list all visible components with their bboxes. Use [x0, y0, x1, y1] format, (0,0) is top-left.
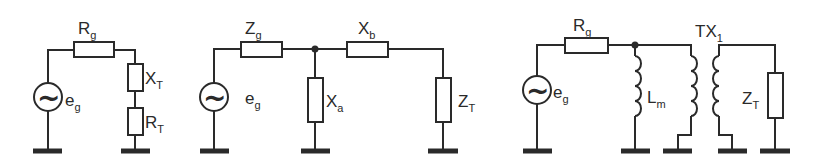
label-xa: Xa [326, 92, 344, 114]
label-xb: Xb [358, 19, 375, 41]
impedance-zg [241, 42, 282, 57]
transformer-secondary-winding [713, 56, 719, 116]
label-eg: eg [245, 89, 261, 111]
svg-text:~: ~ [526, 74, 549, 107]
resistor-rt [128, 108, 143, 135]
label-zt: ZT [742, 89, 759, 111]
label-eg: eg [65, 91, 81, 113]
reactance-xb [347, 42, 388, 57]
resistor-rg [565, 38, 608, 53]
impedance-zt [768, 73, 783, 118]
circuit-1: ~ Rg XT RT eg [33, 19, 164, 151]
circuit-diagrams: ~ Rg XT RT eg ~ Zg Xb Xa ZT eg [0, 0, 820, 163]
reactance-xa [308, 78, 323, 122]
label-xt: XT [145, 69, 163, 91]
svg-text:~: ~ [203, 81, 226, 114]
label-rg: Rg [573, 16, 591, 38]
circuit-3: ~ Rg TX1 Lm ZT eg [523, 16, 790, 151]
reactance-xt [128, 64, 143, 91]
label-tx1: TX1 [695, 22, 723, 44]
label-zg: Zg [245, 19, 262, 41]
label-rg: Rg [78, 19, 96, 41]
label-lm: Lm [647, 88, 666, 110]
resistor-rg [74, 42, 114, 57]
svg-text:~: ~ [37, 81, 60, 114]
impedance-zt [436, 78, 451, 122]
label-eg: eg [553, 83, 569, 105]
label-zt: ZT [458, 92, 475, 114]
inductor-lm [635, 56, 641, 116]
transformer-primary-winding [691, 56, 697, 116]
label-rt: RT [145, 113, 164, 135]
circuit-2: ~ Zg Xb Xa ZT eg [200, 19, 475, 151]
